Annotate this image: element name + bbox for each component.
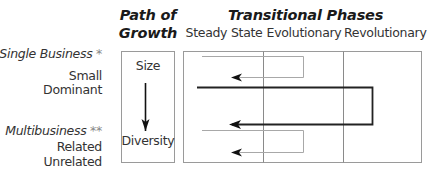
- row-group-multibusiness: Multibusiness **: [5, 125, 102, 138]
- multibusiness-evolutionary-loop: [202, 131, 304, 153]
- path-box-size-label: Size: [121, 60, 175, 73]
- row-item-small: Small: [69, 70, 102, 83]
- row-item-dominant: Dominant: [43, 84, 102, 97]
- path-of-growth-header-line2: Growth: [118, 26, 178, 41]
- multibusiness-footnote-marker: **: [90, 123, 102, 138]
- row-item-related: Related: [57, 141, 102, 154]
- single-business-footnote-marker: *: [96, 46, 102, 61]
- path-box-diversity-label: Diversity: [121, 135, 175, 148]
- column-revolutionary: Revolutionary: [344, 27, 422, 40]
- transitional-phases-box: [184, 52, 422, 163]
- transitional-phases-header: Transitional Phases: [228, 8, 378, 23]
- single-business-title: Single Business: [0, 46, 92, 61]
- path-of-growth-header-line1: Path of: [118, 8, 178, 23]
- multibusiness-title: Multibusiness: [5, 123, 86, 138]
- column-evolutionary: Evolutionary: [264, 27, 344, 40]
- revolutionary-transition-loop: [197, 88, 373, 125]
- row-group-single-business: Single Business *: [0, 48, 102, 61]
- column-steady-state: Steady State: [184, 27, 264, 40]
- single-business-evolutionary-loop: [202, 57, 304, 78]
- row-item-unrelated: Unrelated: [43, 156, 102, 169]
